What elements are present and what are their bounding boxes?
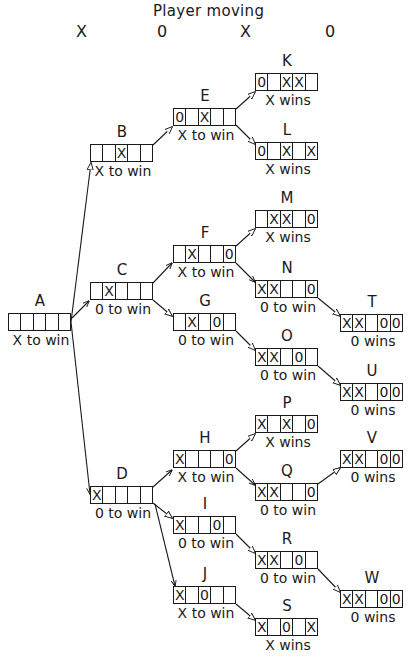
cell bbox=[9, 314, 21, 330]
cell bbox=[268, 619, 280, 635]
cell bbox=[268, 416, 280, 432]
cell: 0 bbox=[306, 416, 317, 432]
node-status: X wins bbox=[249, 637, 327, 653]
board: X bbox=[90, 282, 153, 300]
cell: 0 bbox=[293, 552, 305, 568]
cell: 0 bbox=[224, 451, 235, 467]
node-label: N bbox=[255, 259, 319, 277]
cell: 0 bbox=[211, 517, 223, 533]
cell: 0 bbox=[378, 315, 390, 331]
cell bbox=[366, 384, 378, 400]
board: XX0 bbox=[255, 415, 318, 433]
node-label: J bbox=[173, 565, 237, 583]
cell bbox=[199, 314, 211, 330]
node-label: U bbox=[340, 362, 404, 380]
board: X bbox=[90, 486, 153, 504]
node-status: 0 to win bbox=[167, 332, 245, 348]
cell bbox=[293, 143, 305, 159]
node-M: M XX0 X wins bbox=[255, 210, 318, 228]
cell bbox=[281, 349, 293, 365]
cell bbox=[103, 487, 115, 503]
cell bbox=[211, 451, 223, 467]
board: XX00 bbox=[340, 590, 403, 608]
node-status: 0 to win bbox=[249, 570, 327, 586]
cell: X bbox=[256, 416, 268, 432]
cell bbox=[293, 484, 305, 500]
cell bbox=[224, 109, 235, 125]
cell: 0 bbox=[391, 384, 402, 400]
node-status: 0 to win bbox=[249, 299, 327, 315]
cell: 0 bbox=[281, 619, 293, 635]
node-J: J X0 X to win bbox=[173, 586, 236, 604]
cell bbox=[306, 74, 317, 90]
node-status: 0 wins bbox=[334, 402, 412, 418]
cell: X bbox=[116, 145, 128, 161]
cell bbox=[293, 211, 305, 227]
node-N: N XX0 0 to win bbox=[255, 280, 318, 298]
cell: X bbox=[353, 591, 365, 607]
cell bbox=[91, 145, 103, 161]
cell bbox=[59, 314, 70, 330]
cell: 0 bbox=[378, 451, 390, 467]
node-status: X wins bbox=[249, 229, 327, 245]
cell: 0 bbox=[306, 211, 317, 227]
node-R: R XX0 0 to win bbox=[255, 551, 318, 569]
cell bbox=[281, 552, 293, 568]
node-status: X to win bbox=[167, 264, 245, 280]
node-label: M bbox=[255, 189, 319, 207]
node-F: F X0 X to win bbox=[173, 245, 236, 263]
cell: X bbox=[186, 246, 198, 262]
cell: 0 bbox=[391, 315, 402, 331]
cell: X bbox=[91, 487, 103, 503]
node-T: T XX00 0 wins bbox=[340, 314, 403, 332]
cell bbox=[128, 487, 140, 503]
cell: X bbox=[341, 591, 353, 607]
cell bbox=[224, 517, 235, 533]
cell: X bbox=[174, 517, 186, 533]
cell: X bbox=[268, 484, 280, 500]
cell bbox=[46, 314, 58, 330]
cell: X bbox=[341, 315, 353, 331]
cell bbox=[141, 145, 152, 161]
cell bbox=[281, 484, 293, 500]
node-label: E bbox=[173, 87, 237, 105]
cell bbox=[268, 74, 280, 90]
node-status: 0 wins bbox=[334, 469, 412, 485]
node-status: X wins bbox=[249, 434, 327, 450]
cell: X bbox=[341, 451, 353, 467]
cell: X bbox=[281, 143, 293, 159]
board bbox=[8, 313, 71, 331]
cell: X bbox=[353, 384, 365, 400]
node-status: X to win bbox=[167, 605, 245, 621]
board: XX0 bbox=[255, 210, 318, 228]
cell: 0 bbox=[199, 587, 211, 603]
cell bbox=[116, 487, 128, 503]
cell: X bbox=[353, 315, 365, 331]
node-W: W XX00 0 wins bbox=[340, 590, 403, 608]
node-status: X wins bbox=[249, 161, 327, 177]
cell bbox=[306, 552, 317, 568]
cell bbox=[281, 281, 293, 297]
node-label: B bbox=[90, 123, 154, 141]
cell bbox=[293, 619, 305, 635]
node-U: U XX00 0 wins bbox=[340, 383, 403, 401]
board: XX0 bbox=[255, 551, 318, 569]
node-label: F bbox=[173, 224, 237, 242]
cell bbox=[306, 349, 317, 365]
node-label: L bbox=[255, 121, 319, 139]
node-status: 0 wins bbox=[334, 609, 412, 625]
cell: X bbox=[341, 384, 353, 400]
cell bbox=[224, 314, 235, 330]
cell: 0 bbox=[391, 451, 402, 467]
cell: 0 bbox=[256, 143, 268, 159]
board: X0 bbox=[173, 450, 236, 468]
cell: X bbox=[281, 211, 293, 227]
cell bbox=[199, 246, 211, 262]
cell: 0 bbox=[391, 591, 402, 607]
cell bbox=[103, 145, 115, 161]
board: XX0 bbox=[255, 280, 318, 298]
cell bbox=[211, 246, 223, 262]
cell bbox=[268, 143, 280, 159]
cell bbox=[366, 591, 378, 607]
cell: X bbox=[281, 416, 293, 432]
